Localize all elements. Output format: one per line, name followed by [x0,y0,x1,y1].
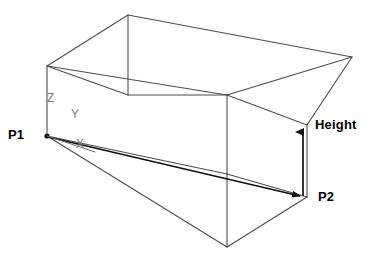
edge-top-inner-long [227,57,352,95]
edge-bottom-front-left [47,136,227,247]
diagonal-arrow-p1-to-p2 [48,137,300,196]
box-edges [47,15,352,247]
bounding-box-wireframe [0,0,378,266]
label-axis-x: X [76,138,84,150]
x-axis-ray [47,136,95,152]
label-axis-y: Y [71,108,79,120]
label-height: Height [315,118,357,131]
label-axis-z: Z [47,92,54,104]
edge-bottom-front-right [227,197,307,247]
label-p1: P1 [8,128,24,141]
bounding-box-diagram: P1 P2 Height Z Y X [0,0,378,266]
edge-top-right-short [307,57,352,125]
edge-top-back-long [128,15,352,57]
edge-bottom-left-to-mid [47,136,227,174]
label-p2: P2 [318,190,334,203]
edge-back-left-diagonal [47,66,128,95]
axis-tick-marks [47,136,95,152]
edge-bottom-mid-to-p2 [227,174,307,197]
edge-top-back-to-front-left [47,15,128,66]
edge-top-left-to-mid [47,66,227,95]
edge-top-mid-to-front-right [227,95,307,125]
